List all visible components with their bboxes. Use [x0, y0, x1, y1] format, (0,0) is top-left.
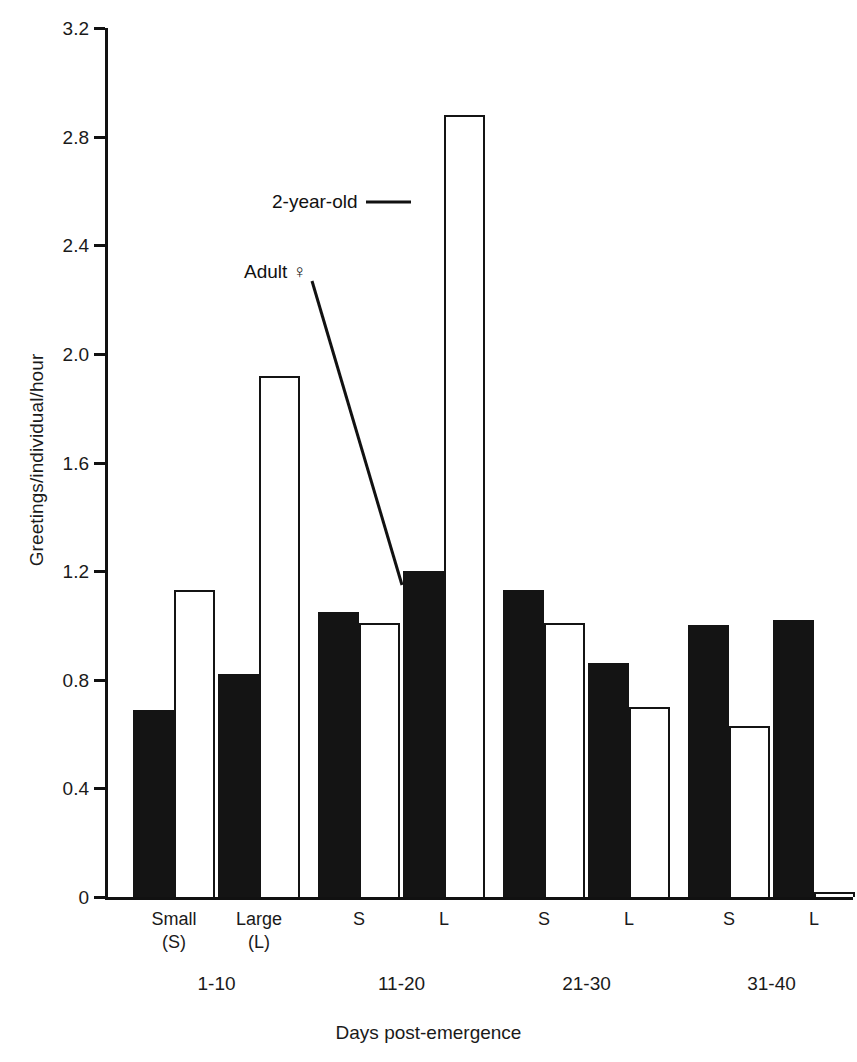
category-label-line1: Large [236, 908, 282, 931]
x-axis-category-label: L [624, 908, 634, 931]
bar-open [259, 376, 300, 897]
bar-filled [773, 620, 814, 897]
y-axis-tick-label: 2.4 [63, 236, 89, 255]
y-axis-tick [94, 570, 105, 573]
y-axis-tick-label: 0.8 [63, 670, 89, 689]
x-axis-category-label: L [439, 908, 449, 931]
y-axis-tick-label: 0.4 [63, 779, 89, 798]
x-axis-category-label: S [538, 908, 550, 931]
y-axis-tick-label: 0 [78, 888, 89, 907]
category-label-line1: L [439, 908, 449, 931]
y-axis-tick [94, 136, 105, 139]
bar-open [544, 623, 585, 897]
annotation-2-year-old: 2-year-old [272, 192, 358, 211]
y-axis-tick-label: 1.6 [63, 453, 89, 472]
bar-open [629, 707, 670, 897]
x-axis-category-label: S [353, 908, 365, 931]
annotation-adult-female: Adult ♀ [244, 262, 307, 281]
x-axis-line [105, 897, 853, 900]
y-axis-tick [94, 679, 105, 682]
category-label-line1: Small [151, 908, 196, 931]
x-axis-category-label: L [809, 908, 819, 931]
bar-filled [403, 571, 444, 897]
x-axis-label: Days post-emergence [0, 1022, 857, 1044]
x-axis-category-label: Small(S) [151, 908, 196, 955]
x-axis-group-label: 31-40 [747, 973, 796, 995]
bar-open [174, 590, 215, 897]
plot-area: 3.22.82.42.01.61.20.80.40 [105, 28, 853, 900]
x-axis-group-label: 1-10 [197, 973, 235, 995]
y-axis-tick [94, 787, 105, 790]
y-axis-tick-label: 3.2 [63, 19, 89, 38]
bar-open [814, 892, 855, 897]
category-label-line2: (L) [236, 931, 282, 954]
y-axis-label: Greetings/individual/hour [26, 180, 48, 740]
bar-open [444, 115, 485, 897]
bar-filled [318, 612, 359, 897]
bar-filled [588, 663, 629, 897]
x-axis-category-label: S [723, 908, 735, 931]
x-axis-category-label: Large(L) [236, 908, 282, 955]
bar-filled [503, 590, 544, 897]
category-label-line2: (S) [151, 931, 196, 954]
y-axis-line [105, 28, 108, 900]
bar-open [729, 726, 770, 897]
x-axis-group-label: 11-20 [378, 973, 425, 995]
x-axis-group-label: 21-30 [562, 973, 611, 995]
y-axis-tick-label: 1.2 [63, 562, 89, 581]
y-axis-tick [94, 244, 105, 247]
bar-filled [218, 674, 259, 897]
y-axis-tick [94, 896, 105, 899]
bar-filled [133, 710, 174, 897]
y-axis-tick [94, 462, 105, 465]
y-axis-tick-label: 2.0 [63, 344, 89, 363]
bar-open [359, 623, 400, 897]
y-axis-tick [94, 27, 105, 30]
y-axis-tick [94, 353, 105, 356]
category-label-line1: S [723, 908, 735, 931]
category-label-line1: L [809, 908, 819, 931]
y-axis-tick-label: 2.8 [63, 127, 89, 146]
category-label-line1: S [538, 908, 550, 931]
category-label-line1: S [353, 908, 365, 931]
category-label-line1: L [624, 908, 634, 931]
chart-figure: Greetings/individual/hour 3.22.82.42.01.… [0, 0, 857, 1062]
bar-filled [688, 625, 729, 897]
